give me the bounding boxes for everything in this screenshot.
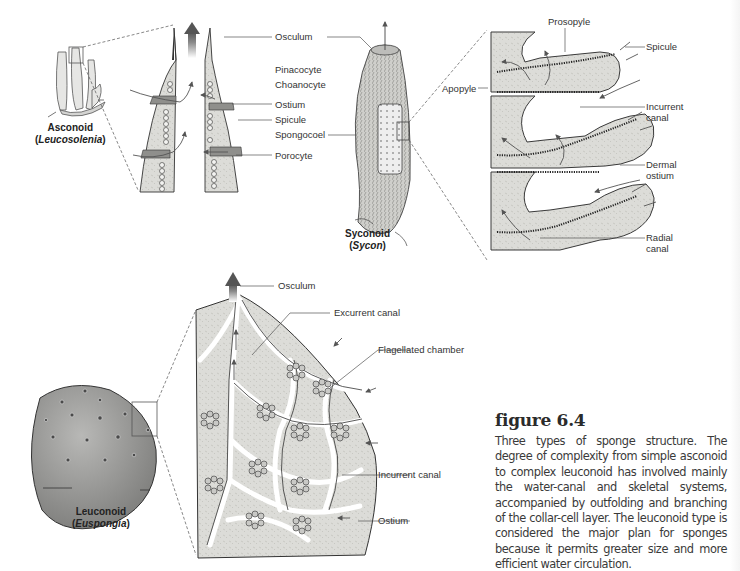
asconoid-section: [130, 28, 242, 192]
asconoid-caption: Asconoid (Leucosolenia): [35, 122, 106, 146]
asconoid-genus: (Leucosolenia): [35, 134, 106, 146]
syconoid-genus: (Sycon): [345, 240, 390, 252]
label-leuconoid-incurrent-canal: Incurrent canal: [378, 469, 441, 480]
label-syconoid-apopyle: Apopyle: [442, 83, 476, 94]
figure-number: figure 6.4: [495, 410, 585, 430]
label-syconoid-incurrent-canal: Incurrentcanal: [646, 101, 684, 123]
label-leuconoid-ostium: Ostium: [378, 515, 408, 526]
label-syconoid-radial-canal: Radialcanal: [646, 232, 673, 254]
label-syconoid-prosopyle: Prosopyle: [548, 16, 590, 27]
label-syconoid-dermal-ostium: Dermalostium: [646, 159, 677, 181]
leuconoid-genus: (Euspongia): [72, 518, 130, 530]
label-leuconoid-osculum: Osculum: [278, 280, 315, 291]
asconoid-type-name: Asconoid: [35, 122, 106, 134]
label-asconoid-choanocyte: Choanocyte: [275, 79, 326, 90]
label-asconoid-spicule: Spicule: [275, 114, 306, 125]
page-edge-shadow: [730, 0, 740, 571]
label-asconoid-pinacocyte: Pinacocyte: [275, 64, 321, 75]
syconoid-specimen: [355, 22, 410, 246]
label-asconoid-porocyte: Porocyte: [275, 150, 313, 161]
leuconoid-section: [196, 295, 378, 558]
label-syconoid-spicule: Spicule: [646, 41, 677, 52]
label-leuconoid-flagellated-chamber: Flagellated chamber: [378, 344, 464, 355]
leuconoid-type-name: Leuconoid: [72, 506, 130, 518]
syconoid-section: [491, 32, 656, 250]
syconoid-type-name: Syconoid: [345, 228, 390, 240]
syconoid-caption: Syconoid (Sycon): [345, 228, 390, 252]
leuconoid-caption: Leuconoid (Euspongia): [72, 506, 130, 530]
label-asconoid-osculum: Osculum: [275, 31, 312, 42]
label-asconoid-spongocoel: Spongocoel: [275, 129, 325, 140]
label-leuconoid-excurrent-canal: Excurrent canal: [334, 307, 400, 318]
figure-caption: Three types of sponge structure. The deg…: [495, 434, 727, 571]
label-asconoid-ostium: Ostium: [275, 99, 305, 110]
asconoid-specimen: [48, 48, 105, 117]
